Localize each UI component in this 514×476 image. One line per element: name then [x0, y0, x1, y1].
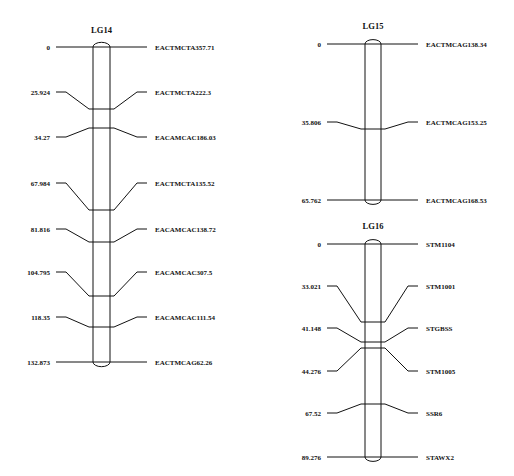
marker: 33.021STM1001 [302, 283, 456, 323]
marker-name: STGBSS [426, 325, 453, 333]
marker-position: 25.924 [31, 89, 51, 97]
marker-position: 67.984 [31, 180, 51, 188]
marker-name: EACTMCAG62.26 [155, 359, 213, 367]
marker: 25.924EACTMCTA222.3 [31, 89, 212, 110]
marker: 65.762EACTMCAG168.53 [302, 197, 488, 205]
marker-name: SSR6 [426, 410, 443, 418]
marker-connector-right [110, 272, 147, 296]
linkage-group-title: LG16 [363, 221, 384, 231]
marker-name: STM1001 [426, 283, 456, 291]
marker-name: EACTMCAG153.25 [426, 119, 487, 127]
marker-connector-right [381, 404, 418, 413]
marker-connector-left [56, 183, 93, 210]
marker: 81.816EACAMCAC138.72 [31, 226, 217, 243]
marker-name: EACAMCAC186.03 [155, 134, 216, 142]
marker-name: STM1005 [426, 368, 456, 376]
marker-name: EACAMCAC307.5 [155, 269, 213, 277]
marker-position: 132.873 [27, 359, 50, 367]
marker-connector-left [56, 317, 93, 327]
marker-name: EACAMCAC138.72 [155, 226, 216, 234]
marker: 44.276STM1005 [302, 348, 456, 376]
marker-position: 33.021 [302, 283, 322, 291]
marker-name: EACAMCAC111.54 [155, 314, 216, 322]
marker: 67.52SSR6 [305, 404, 443, 418]
marker-connector-left [327, 286, 365, 322]
marker-connector-left [56, 229, 93, 242]
marker-name: EACTMCTA222.3 [155, 89, 212, 97]
marker: 0EACTMCAG138.34 [318, 41, 488, 49]
marker-connector-right [381, 328, 418, 342]
chromosome-bar [93, 42, 110, 366]
marker: 41.148STGBSS [302, 325, 453, 343]
chromosome-bar [365, 40, 381, 205]
marker: 104.795EACAMCAC307.5 [27, 269, 213, 297]
marker-position: 34.27 [34, 134, 50, 142]
marker-name: EACTMCAG138.34 [426, 41, 487, 49]
linkage-group-lg16: LG160STM110433.021STM100141.148STGBSS44.… [302, 221, 456, 462]
marker: 118.35EACAMCAC111.54 [31, 314, 215, 328]
marker-connector-left [56, 128, 93, 137]
linkage-group-lg14: LG140EACTMCTA357.7125.924EACTMCTA222.334… [27, 25, 216, 367]
marker-position: 104.795 [27, 269, 50, 277]
marker-position: 67.52 [305, 410, 321, 418]
marker-name: STM1104 [426, 241, 455, 249]
marker-position: 41.148 [302, 325, 322, 333]
marker-position: 81.816 [31, 226, 51, 234]
marker-position: 0 [318, 41, 322, 49]
marker: 0STM1104 [318, 241, 456, 249]
marker-name: STAWX2 [426, 454, 454, 462]
marker-connector-right [381, 348, 418, 371]
marker-connector-right [110, 229, 147, 242]
marker: 34.27EACAMCAC186.03 [34, 128, 216, 142]
linkage-group-title: LG15 [363, 21, 384, 31]
marker-name: EACTMCTA357.71 [155, 44, 215, 52]
marker-name: EACTMCTA135.52 [155, 180, 215, 188]
marker-connector-left [327, 328, 365, 342]
marker-connector-right [110, 92, 147, 109]
linkage-map: LG140EACTMCTA357.7125.924EACTMCTA222.334… [0, 0, 514, 476]
marker-connector-left [56, 92, 93, 109]
marker-position: 118.35 [31, 314, 50, 322]
marker-connector-right [110, 128, 147, 137]
marker-connector-right [110, 183, 147, 210]
marker-connector-right [381, 286, 418, 322]
marker-position: 89.276 [302, 454, 322, 462]
marker-connector-right [110, 317, 147, 327]
chromosome-bar [365, 240, 381, 462]
marker-connector-right [381, 122, 418, 129]
marker-connector-left [327, 122, 365, 129]
marker-connector-left [327, 404, 365, 413]
marker-name: EACTMCAG168.53 [426, 197, 487, 205]
marker-position: 0 [47, 44, 51, 52]
marker-connector-left [56, 272, 93, 296]
marker-position: 0 [318, 241, 322, 249]
marker: 0EACTMCTA357.71 [47, 44, 216, 52]
marker-position: 65.762 [302, 197, 322, 205]
linkage-group-title: LG14 [91, 25, 113, 35]
marker: 132.873EACTMCAG62.26 [27, 359, 213, 367]
marker-connector-left [327, 348, 365, 371]
marker: 35.806EACTMCAG153.25 [302, 119, 488, 130]
marker-position: 35.806 [302, 119, 322, 127]
marker: 67.984EACTMCTA135.52 [31, 180, 215, 211]
linkage-group-lg15: LG150EACTMCAG138.3435.806EACTMCAG153.256… [302, 21, 488, 205]
marker-position: 44.276 [302, 368, 322, 376]
